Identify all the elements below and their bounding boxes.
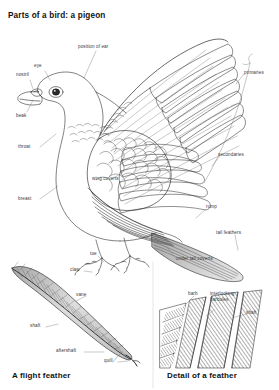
- label-claw: claw: [70, 267, 80, 272]
- feet-shape: [75, 238, 149, 275]
- label-tail-feathers: tail feathers: [216, 230, 241, 235]
- label-beak: beak: [16, 113, 26, 118]
- label-secondaries: secondaries: [218, 152, 244, 157]
- label-eye: eye: [34, 63, 42, 68]
- bird-anatomy-illustration: [0, 0, 279, 390]
- leader-lines: [27, 51, 244, 272]
- label-wing-coverts: wing coverts: [92, 176, 119, 181]
- label-vane: vane: [76, 292, 86, 297]
- label-nostril: nostril: [16, 72, 29, 77]
- label-aftershaft: aftershaft: [56, 348, 76, 353]
- label-throat: throat: [18, 144, 30, 149]
- label-interlocking-barbules: interlocking barbules: [210, 291, 234, 302]
- label-interlocking-line2: barbules: [210, 297, 228, 302]
- page-title: Parts of a bird: a pigeon: [8, 11, 105, 20]
- label-breast: breast: [18, 196, 31, 201]
- label-primaries: primaries: [244, 70, 264, 75]
- label-quill: quill: [104, 358, 113, 363]
- label-toe: toe: [90, 251, 97, 256]
- diagram-page: Parts of a bird: a pigeon A flight feath…: [0, 0, 279, 390]
- label-shaft: shaft: [30, 323, 40, 328]
- label-interlocking-line1: interlocking: [210, 291, 234, 296]
- label-under-tail-coverts: under tail coverts: [176, 256, 213, 261]
- label-rump: rump: [206, 204, 217, 209]
- beak-shape: [18, 89, 43, 105]
- caption-flight-feather: A flight feather: [12, 371, 71, 380]
- eye-shape: [49, 87, 63, 98]
- label-barb: barb: [188, 291, 198, 296]
- spread-wing-shape: [100, 39, 245, 213]
- label-detail-shaft: shaft: [246, 310, 256, 315]
- secondary-body-feather-layers: [88, 188, 182, 246]
- label-position-of-ear: position of ear: [78, 44, 108, 49]
- caption-feather-detail: Detail of a feather: [167, 371, 237, 380]
